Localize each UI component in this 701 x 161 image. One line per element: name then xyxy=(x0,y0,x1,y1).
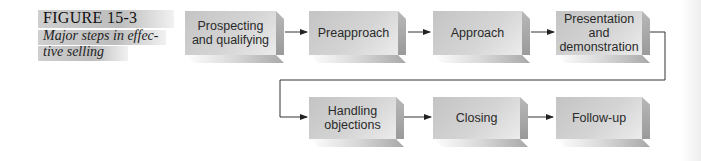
step-label: and xyxy=(589,26,610,40)
step-closing: Closing xyxy=(433,97,520,139)
step-label: demonstration xyxy=(559,40,638,54)
step-label: Presentation xyxy=(564,12,634,26)
step-presentation-and-demonstration: Presentationanddemonstration xyxy=(556,11,642,55)
step-label: and qualifying xyxy=(192,33,269,47)
step-label: Follow-up xyxy=(572,111,626,125)
step-label: Handling xyxy=(328,104,377,118)
step-follow-up: Follow-up xyxy=(556,97,642,139)
step-label: Prospecting xyxy=(197,19,263,33)
step-approach: Approach xyxy=(433,11,522,55)
step-label: objections xyxy=(324,118,380,132)
step-preapproach: Preapproach xyxy=(309,11,398,55)
step-label: Closing xyxy=(456,111,498,125)
step-label: Approach xyxy=(451,26,505,40)
step-prospecting-and-qualifying: Prospectingand qualifying xyxy=(185,11,276,55)
step-label: Preapproach xyxy=(318,26,390,40)
step-handling-objections: Handlingobjections xyxy=(309,97,396,139)
